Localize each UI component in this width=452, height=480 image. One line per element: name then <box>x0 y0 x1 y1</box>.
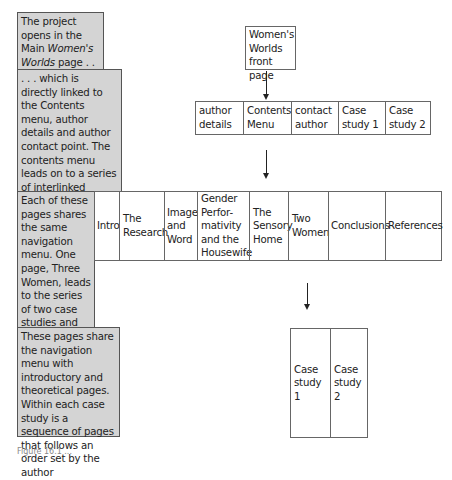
nav-cell-the-research[interactable]: The Research <box>119 192 164 260</box>
cell-label: Case study 2 <box>334 363 364 404</box>
cell-label: Two Women <box>292 212 329 239</box>
cell-label: Case study 1 <box>294 363 327 404</box>
note-shared-navigation: Each of these pages shares the same navi… <box>17 191 95 328</box>
nav-cell-gender-performativity[interactable]: Gender Perfor-mativity and the Housewife <box>197 192 249 260</box>
front-page-box[interactable]: Women's Worlds front page <box>245 26 296 70</box>
arrow-down-icon <box>266 71 267 96</box>
cell-label: Contents Menu <box>247 104 291 131</box>
note-project-opens: The project opens in the Main Women's Wo… <box>17 12 104 70</box>
nav-cell-conclusions[interactable]: Conclusions <box>328 192 385 260</box>
nav-cell-sensory-home[interactable]: The Sensory Home <box>249 192 288 260</box>
menu-cell-author-details[interactable]: author details <box>196 102 243 134</box>
cell-label: The Research <box>123 212 168 239</box>
note-contents-link: . . . which is directly linked to the Co… <box>17 69 122 192</box>
note-case-study-sequence: These pages share the navigation menu wi… <box>17 327 120 437</box>
cell-label: contact author <box>295 104 335 131</box>
cell-label: The Sensory Home <box>253 206 293 247</box>
arrow-down-icon <box>266 150 267 175</box>
nav-cell-references[interactable]: References <box>385 192 445 260</box>
case-study-1-page[interactable]: Case study 1 <box>291 329 330 437</box>
nav-cell-intro[interactable]: Intro <box>95 192 119 260</box>
menu-cell-case-study-2[interactable]: Case study 2 <box>385 102 430 134</box>
navigation-menu-row: Intro The Research Image and Word Gender… <box>94 191 442 261</box>
cell-label: Intro <box>97 219 120 233</box>
nav-cell-two-women[interactable]: Two Women <box>288 192 328 260</box>
menu-cell-case-study-1[interactable]: Case study 1 <box>338 102 385 134</box>
arrow-down-icon <box>307 283 308 306</box>
cell-label: Gender Perfor-mativity and the Housewife <box>201 192 252 260</box>
menu-cell-contact-author[interactable]: contact author <box>291 102 338 134</box>
menu-cell-contents-menu[interactable]: Contents Menu <box>243 102 291 134</box>
figure-caption: Figure 16.1 ... <box>17 447 72 456</box>
cell-label: Case study 2 <box>389 104 427 131</box>
cell-label: Case study 1 <box>342 104 382 131</box>
case-studies-row: Case study 1 Case study 2 <box>290 328 368 438</box>
contents-menu-row: author details Contents Menu contact aut… <box>195 101 431 135</box>
cell-label: References <box>388 219 443 233</box>
cell-label: author details <box>199 104 240 131</box>
case-study-2-page[interactable]: Case study 2 <box>330 329 367 437</box>
cell-label: Image and Word <box>167 206 198 247</box>
front-page-label: Women's Worlds front page <box>249 29 294 81</box>
nav-cell-image-and-word[interactable]: Image and Word <box>164 192 197 260</box>
cell-label: Conclusions <box>331 219 390 233</box>
